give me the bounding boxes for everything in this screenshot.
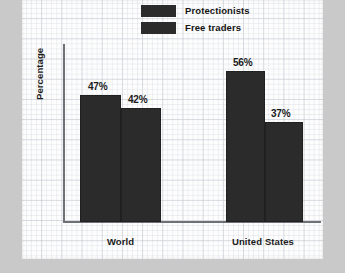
bar-value-world-protectionists: 47% (88, 81, 107, 92)
y-axis-line (63, 44, 65, 223)
legend-swatch-icon (141, 22, 176, 34)
y-axis-title: Percentage (34, 10, 45, 100)
bar-world-free-traders (121, 108, 161, 222)
legend-item-free-traders: Free traders (141, 20, 250, 35)
legend-label-free-traders: Free traders (185, 22, 241, 33)
chart-screenshot: Protectionists Free traders Percentage 4… (0, 0, 345, 273)
chart-legend: Protectionists Free traders (141, 3, 250, 37)
bar-united-states-free-traders (265, 122, 303, 222)
category-label-united-states: United States (223, 236, 303, 247)
bar-value-world-free-traders: 42% (128, 94, 147, 105)
bar-united-states-protectionists (226, 71, 265, 222)
bar-value-united-states-protectionists: 56% (233, 57, 252, 68)
bar-world-protectionists (80, 95, 121, 222)
legend-label-protectionists: Protectionists (185, 5, 250, 16)
legend-swatch-icon (141, 5, 176, 17)
legend-item-protectionists: Protectionists (141, 3, 250, 18)
bar-value-united-states-free-traders: 37% (271, 108, 290, 119)
category-label-world: World (80, 236, 161, 247)
